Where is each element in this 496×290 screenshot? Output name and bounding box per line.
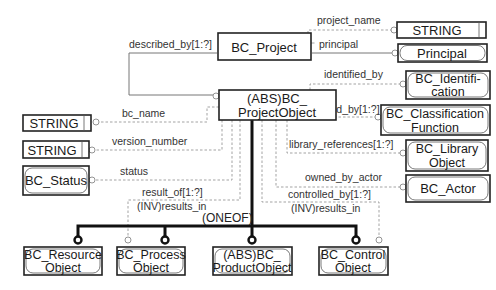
entity-resource-object[interactable]: BC_Resource Object xyxy=(24,247,102,275)
entity-string-bc-name[interactable]: STRING xyxy=(23,115,91,131)
label-identified-by: identified_by xyxy=(324,68,384,80)
label-project-name: project_name xyxy=(317,14,381,26)
svg-text:BC_Identifi-: BC_Identifi- xyxy=(415,72,480,86)
svg-text:BC_Process: BC_Process xyxy=(116,248,185,262)
svg-text:cation: cation xyxy=(431,85,464,99)
label-result-of: result_of[1:?] xyxy=(142,186,203,198)
svg-text:BC_Project: BC_Project xyxy=(231,40,297,55)
svg-text:(ABS)BC_: (ABS)BC_ xyxy=(247,91,308,106)
svg-text:Object: Object xyxy=(335,261,372,275)
entity-product-object[interactable]: (ABS)BC_ ProductObject xyxy=(212,247,292,275)
svg-text:Principal: Principal xyxy=(417,46,467,61)
entity-project-object[interactable]: (ABS)BC_ ProjectObject xyxy=(219,90,336,120)
relation-version-number: version_number xyxy=(89,120,222,153)
label-oneof: (ONEOF) xyxy=(202,211,253,225)
svg-text:ProductObject: ProductObject xyxy=(212,261,292,275)
label-bc-name: bc_name xyxy=(122,107,165,119)
label-library-references: library_references[1:?] xyxy=(289,138,394,150)
svg-text:(ABS)BC_: (ABS)BC_ xyxy=(223,248,282,262)
label-controlled-by: controlled_by[1:?] xyxy=(288,188,371,200)
svg-text:BC_Resource: BC_Resource xyxy=(24,248,102,262)
express-g-diagram: described_by[1:?] project_name principal… xyxy=(0,0,496,290)
svg-text:Object: Object xyxy=(429,156,466,170)
label-results-in-right: (INV)results_in xyxy=(291,202,361,214)
entity-control-object[interactable]: BC_Control Object xyxy=(319,247,388,275)
svg-text:Object: Object xyxy=(133,261,170,275)
label-version-number: version_number xyxy=(112,135,188,147)
entity-status[interactable]: BC_Status xyxy=(23,166,89,195)
svg-text:STRING: STRING xyxy=(27,143,76,158)
label-principal: principal xyxy=(319,38,358,50)
svg-text:BC_Control: BC_Control xyxy=(321,248,386,262)
entity-actor[interactable]: BC_Actor xyxy=(406,175,490,202)
entity-classification-function[interactable]: BC_Classification Function xyxy=(381,105,490,135)
relation-described-by: described_by[1:?] xyxy=(129,38,219,99)
entity-string-project-name[interactable]: STRING xyxy=(397,22,486,38)
entity-library-object[interactable]: BC_Library Object xyxy=(406,140,488,171)
entity-identification[interactable]: BC_Identifi- cation xyxy=(406,71,490,99)
label-results-in-left: (INV)results_in xyxy=(137,200,207,212)
entity-process-object[interactable]: BC_Process Object xyxy=(116,247,185,275)
relation-identified-by: identified_by xyxy=(310,68,406,90)
svg-text:Object: Object xyxy=(45,261,82,275)
relation-status: status xyxy=(89,120,232,183)
relation-bc-name: bc_name xyxy=(93,107,219,125)
svg-text:BC_Actor: BC_Actor xyxy=(420,181,476,196)
svg-text:ProjectObject: ProjectObject xyxy=(238,105,316,120)
label-described-by: described_by[1:?] xyxy=(129,38,212,50)
entity-principal[interactable]: Principal xyxy=(398,44,487,62)
label-status: status xyxy=(120,165,148,177)
entity-string-version-number[interactable]: STRING xyxy=(23,141,89,158)
label-owned-by-actor: owned_by_actor xyxy=(305,171,383,183)
svg-text:BC_Classification: BC_Classification xyxy=(386,107,484,121)
relation-principal: principal xyxy=(312,38,398,56)
svg-text:BC_Library: BC_Library xyxy=(416,142,479,156)
svg-text:Function: Function xyxy=(411,121,459,135)
svg-text:STRING: STRING xyxy=(412,23,461,38)
svg-text:BC_Status: BC_Status xyxy=(25,173,88,188)
svg-text:STRING: STRING xyxy=(29,116,78,131)
entity-bc-project[interactable]: BC_Project xyxy=(218,33,311,60)
